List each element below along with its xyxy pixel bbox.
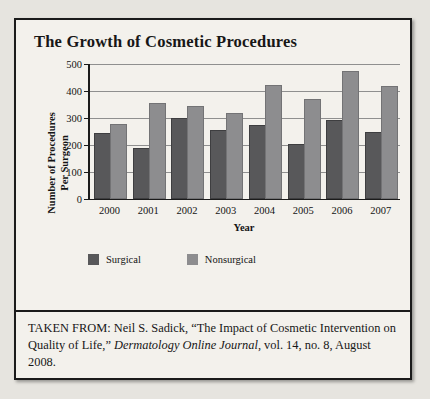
legend-label-nonsurgical: Nonsurgical [205, 254, 256, 265]
bar-group-2000 [94, 63, 125, 199]
bar-surgical-2004 [249, 125, 266, 198]
legend-item-nonsurgical: Nonsurgical [187, 254, 256, 265]
y-tick-label-200: 200 [66, 139, 82, 150]
legend-swatch-surgical [88, 254, 99, 265]
source-caption: TAKEN FROM: Neil S. Sadick, “The Impact … [28, 320, 398, 371]
y-axis-line [88, 64, 90, 200]
chart-legend: Surgical Nonsurgical [88, 254, 400, 265]
bar-nonsurgical-2005 [304, 99, 321, 199]
legend-label-surgical: Surgical [106, 254, 141, 265]
bar-nonsurgical-2004 [265, 85, 282, 199]
y-tick-label-500: 500 [66, 59, 82, 70]
caption-journal-title: Dermatology Online Journal [114, 338, 258, 352]
bar-surgical-2006 [326, 120, 343, 199]
figure-box: The Growth of Cosmetic Procedures Number… [14, 18, 412, 380]
chart-title: The Growth of Cosmetic Procedures [34, 32, 297, 52]
bar-group-2004 [249, 63, 280, 199]
bar-group-2002 [171, 63, 202, 199]
x-axis-line [88, 199, 400, 201]
bar-nonsurgical-2006 [342, 71, 359, 198]
x-tick-label-2004: 2004 [254, 205, 275, 216]
y-tick-label-0: 0 [77, 193, 82, 204]
legend-item-surgical: Surgical [88, 254, 141, 265]
x-tick-label-2001: 2001 [138, 205, 159, 216]
bar-surgical-2001 [133, 148, 150, 198]
bar-surgical-2005 [288, 144, 305, 198]
bar-group-2005 [288, 63, 319, 199]
x-tick-label-2005: 2005 [293, 205, 314, 216]
bar-group-2003 [210, 63, 241, 199]
bar-surgical-2007 [365, 132, 382, 199]
y-axis-label-line1: Number of Procedures [45, 97, 58, 229]
y-tick-label-400: 400 [66, 85, 82, 96]
bar-nonsurgical-2003 [226, 113, 243, 199]
plot-area: 0100200300400500 20002001200220032004200… [88, 64, 400, 200]
chart-area: Number of Procedures Per Surgeon 0100200… [16, 58, 412, 288]
x-tick-label-2000: 2000 [99, 205, 120, 216]
bar-nonsurgical-2001 [149, 103, 166, 199]
bar-surgical-2003 [210, 130, 227, 199]
bar-group-2006 [326, 63, 357, 199]
legend-swatch-nonsurgical [187, 254, 198, 265]
bar-nonsurgical-2007 [381, 86, 398, 198]
bar-nonsurgical-2000 [110, 124, 127, 198]
bar-group-2007 [365, 63, 396, 199]
page-background: The Growth of Cosmetic Procedures Number… [0, 0, 430, 399]
bar-surgical-2000 [94, 133, 111, 199]
x-tick-label-2006: 2006 [331, 205, 352, 216]
x-tick-label-2003: 2003 [215, 205, 236, 216]
x-tick-label-2007: 2007 [370, 205, 391, 216]
bar-nonsurgical-2002 [187, 106, 204, 199]
x-axis-label: Year [88, 222, 400, 233]
y-tick-label-100: 100 [66, 166, 82, 177]
y-tick-label-300: 300 [66, 112, 82, 123]
bar-group-2001 [133, 63, 164, 199]
bar-surgical-2002 [171, 118, 188, 199]
x-tick-label-2002: 2002 [176, 205, 197, 216]
caption-divider [16, 310, 410, 312]
